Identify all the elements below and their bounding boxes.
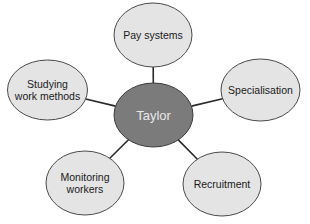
node-label-monitoring-workers: Monitoring xyxy=(60,171,109,183)
node-pay-systems: Pay systems xyxy=(114,3,192,67)
center-node-taylor: Taylor xyxy=(114,83,193,147)
connector-monitoring-workers xyxy=(110,140,129,159)
node-label-studying-work-methods: work methods xyxy=(14,90,80,102)
node-label-studying-work-methods: Studying xyxy=(27,78,68,90)
center-label: Taylor xyxy=(136,108,171,123)
connector-recruitment xyxy=(178,140,197,159)
node-label-pay-systems: Pay systems xyxy=(123,29,183,41)
taylor-mind-map: Pay systemsSpecialisationRecruitmentMoni… xyxy=(0,0,310,224)
node-studying-work-methods: Studyingwork methods xyxy=(8,60,88,120)
connector-specialisation xyxy=(192,99,223,106)
node-label-monitoring-workers: workers xyxy=(66,183,104,195)
connector-studying-work-methods xyxy=(86,99,116,106)
node-specialisation: Specialisation xyxy=(221,59,300,121)
node-recruitment: Recruitment xyxy=(183,152,261,216)
node-label-recruitment: Recruitment xyxy=(194,178,251,190)
node-monitoring-workers: Monitoringworkers xyxy=(46,151,124,215)
node-label-specialisation: Specialisation xyxy=(228,84,293,96)
